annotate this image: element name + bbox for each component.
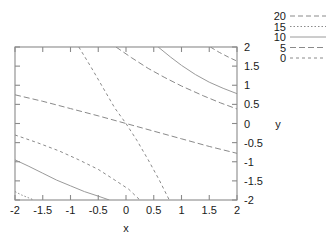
y-axis-ticks-group: 21.510.50-0.5-1-1.5-2 bbox=[15, 41, 263, 206]
contour-line-0 bbox=[15, 135, 140, 200]
x-tick-label: 0.5 bbox=[146, 204, 161, 216]
y-tick-label: 1 bbox=[244, 79, 250, 91]
y-axis-label: y bbox=[275, 118, 281, 130]
y-tick-label: 2 bbox=[244, 41, 250, 53]
x-tick-label: 1.5 bbox=[202, 204, 217, 216]
y-tick-label: -1 bbox=[244, 156, 254, 168]
contour-line-15 bbox=[15, 192, 34, 200]
contour-plot-figure: -2-1.5-1-0.500.511.52 21.510.50-0.5-1-1.… bbox=[0, 0, 329, 241]
x-tick-label: 1 bbox=[178, 204, 184, 216]
contour-line-10-lower bbox=[15, 160, 109, 200]
plot-frame bbox=[15, 47, 237, 200]
y-tick-label: 1.5 bbox=[244, 60, 259, 72]
x-tick-label: -1 bbox=[66, 204, 76, 216]
plot-canvas: -2-1.5-1-0.500.511.52 21.510.50-0.5-1-1.… bbox=[0, 0, 329, 241]
x-tick-label: 0 bbox=[123, 204, 129, 216]
legend-label-0: 0 bbox=[280, 52, 286, 64]
x-tick-label: 2 bbox=[234, 204, 240, 216]
contour-line-10 bbox=[158, 47, 237, 94]
contour-lines-group bbox=[15, 47, 237, 200]
y-tick-label: -1.5 bbox=[244, 175, 263, 187]
contour-line-20 bbox=[210, 47, 237, 61]
y-tick-label: -0.5 bbox=[244, 137, 263, 149]
y-tick-label: 0 bbox=[244, 118, 250, 130]
x-tick-label: -1.5 bbox=[33, 204, 52, 216]
x-axis-ticks-group: -2-1.5-1-0.500.511.52 bbox=[10, 47, 240, 216]
x-tick-label: -0.5 bbox=[89, 204, 108, 216]
x-tick-label: -2 bbox=[10, 204, 20, 216]
y-tick-label: 0.5 bbox=[244, 98, 259, 110]
contour-line-0-steep bbox=[79, 47, 169, 200]
x-axis-label: x bbox=[123, 222, 129, 234]
legend-group: 20151050 bbox=[274, 10, 326, 64]
y-tick-label: -2 bbox=[244, 194, 254, 206]
contour-line-5-upper bbox=[116, 47, 237, 109]
